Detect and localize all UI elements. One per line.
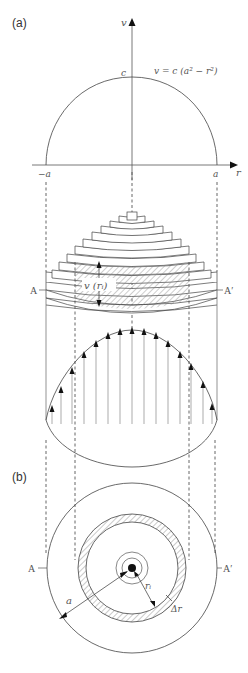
radius-ri-label: rᵢ xyxy=(145,581,151,591)
section-b-left-label: A xyxy=(28,563,36,574)
radius-a-label: a xyxy=(66,595,72,606)
center-dot xyxy=(128,564,136,572)
section-a-left-label: A xyxy=(30,285,38,296)
delta-r-label: Δr xyxy=(170,604,182,614)
neg-a-tick-label: −a xyxy=(38,169,51,179)
velocity-front-base xyxy=(46,420,217,467)
panel-b-label: (b) xyxy=(12,470,27,484)
r-axis: r −a a xyxy=(32,162,242,180)
section-a-right-label: A′ xyxy=(224,285,233,296)
equation-label: v = c (a² − r²) xyxy=(154,66,218,76)
panel-a-label: (a) xyxy=(12,16,27,30)
velocity-vectors xyxy=(52,330,212,424)
pos-a-tick-label: a xyxy=(213,169,218,179)
r-axis-label: r xyxy=(236,167,242,178)
velocity-ri-label: v (rᵢ) xyxy=(84,280,108,291)
peak-label: c xyxy=(121,68,126,78)
v-axis: v xyxy=(121,17,136,180)
poiseuille-flow-diagram: (a) v r −a a c v = c (a² − r²) xyxy=(0,0,248,673)
tube-cross-section xyxy=(47,483,217,653)
v-axis-arrow-icon xyxy=(129,18,136,26)
section-b-right-label: A′ xyxy=(223,563,232,574)
velocity-profile-curve xyxy=(46,77,217,165)
v-axis-label: v xyxy=(121,17,127,28)
